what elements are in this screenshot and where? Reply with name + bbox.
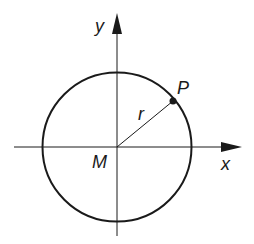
point-p-marker: [170, 98, 177, 105]
y-axis-arrow-icon: [112, 13, 122, 34]
point-label: P: [177, 78, 189, 98]
x-axis-arrow-icon: [221, 142, 242, 152]
center-label: M: [92, 152, 107, 172]
radius-line: [117, 101, 173, 147]
x-axis-label: x: [220, 154, 231, 174]
circle-diagram: y x M P r: [0, 0, 254, 244]
y-axis-label: y: [93, 16, 105, 36]
radius-label: r: [138, 104, 145, 124]
